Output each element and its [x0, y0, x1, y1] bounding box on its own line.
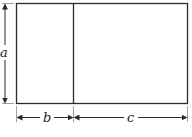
rectangle-diagram: a b c [0, 0, 192, 137]
outer-rectangle [17, 4, 188, 104]
label-a: a [0, 45, 8, 60]
label-b: b [43, 110, 51, 125]
label-c: c [127, 110, 135, 125]
